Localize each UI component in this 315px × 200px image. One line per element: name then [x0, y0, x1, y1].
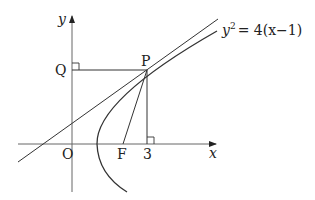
- x-axis-label: x: [209, 145, 217, 161]
- equation-lhs-exp: 2: [230, 21, 236, 31]
- right-angle-q: [72, 63, 79, 70]
- parabola-curve: [97, 31, 217, 192]
- x-tick-3-label: 3: [143, 146, 152, 162]
- origin-label: O: [62, 146, 73, 162]
- equation-label: y2= 4(x−1): [221, 21, 302, 38]
- parabola-diagram: y x O Q P F 3 y2= 4(x−1): [0, 0, 315, 200]
- focus-label: F: [117, 146, 127, 162]
- segment-pf: [123, 70, 147, 144]
- point-q-label: Q: [55, 62, 66, 78]
- tangent-line: [18, 19, 218, 162]
- point-p-label: P: [141, 53, 150, 69]
- equation-rhs: = 4(x−1): [238, 22, 303, 38]
- right-angle-foot: [147, 137, 154, 144]
- y-axis-label: y: [57, 11, 67, 27]
